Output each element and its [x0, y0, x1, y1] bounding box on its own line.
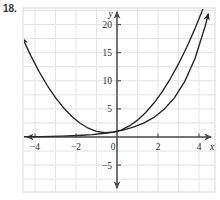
y-tick-label: 10: [103, 76, 113, 86]
coordinate-plane-figure: 18. −4−2242015105−50xy: [0, 0, 220, 200]
y-tick-label: 20: [103, 20, 113, 30]
y-tick-label: 5: [107, 104, 112, 114]
x-tick-label: 4: [197, 142, 202, 152]
x-tick-label: −2: [71, 142, 81, 152]
x-tick-label: 2: [156, 142, 161, 152]
plot-frame-group: [23, 8, 215, 192]
graph-canvas: −4−2242015105−50xy: [0, 0, 220, 200]
x-axis-label: x: [209, 142, 215, 152]
origin-label: 0: [111, 142, 116, 152]
y-tick-label: −5: [102, 161, 112, 171]
x-tick-label: −4: [30, 142, 40, 152]
plot-background: [23, 8, 215, 192]
problem-number-label: 18.: [3, 3, 17, 15]
y-axis-label: y: [107, 9, 113, 19]
y-tick-label: 15: [103, 48, 113, 58]
